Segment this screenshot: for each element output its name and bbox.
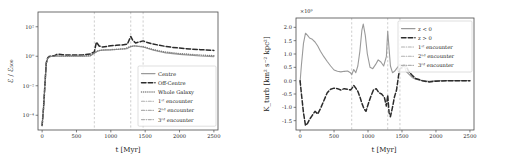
- left-y-axis-label: ℰ / ℰ₅₀₀: [7, 59, 15, 82]
- right-panel: 05001000150020002500 2.01.51.00.50.0-0.5…: [256, 0, 512, 162]
- left-plot-svg: 05001000150020002500 10²10⁰10⁻²10⁻⁴ t [M…: [0, 0, 256, 162]
- y-tick-label: -0.5: [282, 91, 292, 97]
- legend-label[interactable]: 2ⁿᵈ encounter: [158, 107, 195, 113]
- y-tick-label: 10⁰: [25, 53, 34, 59]
- left-x-tick-labels: 05001000150020002500: [40, 133, 220, 139]
- x-tick-label: 1000: [104, 133, 117, 139]
- left-y-tick-labels: 10²10⁰10⁻²10⁻⁴: [23, 24, 34, 119]
- left-panel: 05001000150020002500 10²10⁰10⁻²10⁻⁴ t [M…: [0, 0, 256, 162]
- x-tick-label: 0: [40, 133, 43, 139]
- x-tick-label: 1500: [395, 133, 408, 139]
- x-tick-label: 500: [72, 133, 82, 139]
- y-tick-label: 0.0: [284, 78, 292, 84]
- y-tick-label: -1.0: [282, 104, 292, 110]
- y-tick-label: 1.5: [284, 38, 292, 44]
- legend-label[interactable]: 1ˢᵗ encounter: [158, 98, 193, 104]
- right-y-tick-labels: 2.01.51.00.50.0-0.5-1.0-1.5: [282, 24, 292, 123]
- x-tick-label: 0: [298, 133, 301, 139]
- x-tick-label: 1000: [361, 133, 374, 139]
- legend-label[interactable]: 3ʳᵈ encounter: [418, 62, 454, 68]
- y-tick-label: 10⁻⁴: [23, 112, 34, 118]
- x-tick-label: 2500: [207, 133, 220, 139]
- right-exponent-label: ×10⁹: [300, 8, 313, 14]
- two-panel-figure: 05001000150020002500 10²10⁰10⁻²10⁻⁴ t [M…: [0, 0, 512, 162]
- x-tick-label: 500: [329, 133, 339, 139]
- legend-label[interactable]: 1ˢᵗ encounter: [418, 44, 453, 50]
- left-encounter-lines: [94, 12, 143, 130]
- data-series-line: [300, 65, 470, 126]
- x-tick-label: 1500: [139, 133, 152, 139]
- left-legend[interactable]: CentreOff-CentreWhole Galaxy1ˢᵗ encounte…: [138, 66, 216, 126]
- y-tick-label: 0.5: [284, 64, 292, 70]
- legend-label[interactable]: Off-Centre: [158, 80, 186, 86]
- right-x-axis-label: t [Myr]: [372, 146, 397, 154]
- x-tick-label: 2000: [429, 133, 442, 139]
- y-tick-label: 10²: [25, 24, 34, 30]
- y-tick-label: -1.5: [282, 118, 292, 124]
- right-plot-svg: 05001000150020002500 2.01.51.00.50.0-0.5…: [256, 0, 512, 162]
- left-x-axis-label: t [Myr]: [116, 146, 141, 154]
- y-tick-label: 10⁻²: [23, 83, 34, 89]
- legend-label[interactable]: z > 0: [418, 35, 432, 41]
- right-encounter-lines: [352, 18, 400, 130]
- right-legend[interactable]: z < 0z > 01ˢᵗ encounter2ⁿᵈ encounter3ʳᵈ …: [398, 21, 472, 72]
- legend-label[interactable]: 3ʳᵈ encounter: [158, 117, 194, 123]
- legend-label[interactable]: z < 0: [418, 26, 432, 32]
- legend-label[interactable]: Whole Galaxy: [158, 89, 194, 96]
- right-x-tick-labels: 05001000150020002500: [298, 133, 476, 139]
- x-tick-label: 2000: [173, 133, 186, 139]
- legend-label[interactable]: Centre: [158, 71, 176, 77]
- legend-label[interactable]: 2ⁿᵈ encounter: [418, 53, 455, 59]
- right-y-axis-label: K_turb [km² s⁻² kpc²]: [263, 36, 271, 112]
- x-tick-label: 2500: [463, 133, 476, 139]
- y-tick-label: 1.0: [284, 51, 292, 57]
- y-tick-label: 2.0: [284, 24, 292, 30]
